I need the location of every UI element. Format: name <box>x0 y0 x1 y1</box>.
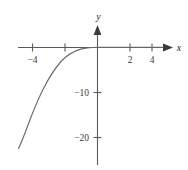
y-tick-label-neg20: −20 <box>74 133 89 143</box>
y-tick-label-neg10: −10 <box>74 88 89 98</box>
x-tick-label-2: 2 <box>128 55 133 65</box>
x-tick-label-4: 4 <box>150 55 155 65</box>
x-axis-label: x <box>176 42 182 53</box>
x-axis-arrow-icon <box>163 44 173 52</box>
y-axis-arrow-icon <box>94 25 102 35</box>
plot-canvas: −4 2 4 −10 −20 x y <box>0 0 188 170</box>
exponential-curve <box>19 47 163 148</box>
exponential-curve-figure: −4 2 4 −10 −20 x y <box>0 0 188 170</box>
x-tick-label-neg4: −4 <box>27 55 37 65</box>
y-axis-label: y <box>95 11 101 22</box>
